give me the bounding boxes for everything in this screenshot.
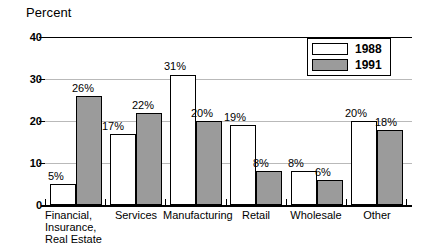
x-category-label-services: Services xyxy=(106,209,166,221)
legend: 1988 1991 xyxy=(307,38,391,76)
legend-swatch-1991 xyxy=(312,59,348,71)
bar-chart: Percent 40 30 20 10 0 5% 26% 17% 22% 31%… xyxy=(0,0,429,252)
bar-value-1988-services: 17% xyxy=(102,121,124,132)
x-axis-line xyxy=(41,205,412,207)
bar-value-1988-other: 20% xyxy=(345,108,367,119)
bar-value-1988-retail: 19% xyxy=(224,112,246,123)
y-tick-label-0: 0 xyxy=(18,200,42,211)
legend-label-1991: 1991 xyxy=(355,58,382,73)
x-category-label-other: Other xyxy=(347,209,407,221)
bar-1991-wholesale xyxy=(317,180,343,205)
bar-1991-manufacturing xyxy=(196,121,222,205)
legend-label-1988: 1988 xyxy=(355,42,382,57)
bar-value-1991-wholesale: 6% xyxy=(315,167,331,178)
bar-1991-retail xyxy=(256,171,282,205)
bar-1991-services xyxy=(136,113,162,205)
bar-1988-other xyxy=(351,121,377,205)
x-tick-6 xyxy=(406,199,407,205)
x-category-label-wholesale: Wholesale xyxy=(285,209,347,221)
bar-1991-financial xyxy=(76,96,102,205)
x-category-label-financial: Financial, Insurance, Real Estate xyxy=(45,209,107,245)
bar-value-1988-manufacturing: 31% xyxy=(164,61,186,72)
bar-1988-services xyxy=(110,134,136,205)
bar-1988-financial xyxy=(50,184,76,205)
x-tick-2 xyxy=(165,199,166,205)
bar-value-1991-financial: 26% xyxy=(72,83,94,94)
x-tick-4 xyxy=(286,199,287,205)
bar-1988-manufacturing xyxy=(170,75,196,205)
x-tick-5 xyxy=(346,199,347,205)
bar-value-1991-manufacturing: 20% xyxy=(191,108,213,119)
legend-swatch-1988 xyxy=(312,43,348,55)
bar-value-1988-wholesale: 8% xyxy=(288,158,304,169)
y-axis-title: Percent xyxy=(26,6,72,20)
bar-value-1988-financial: 5% xyxy=(48,171,64,182)
gridline-30 xyxy=(45,79,412,80)
x-tick-1 xyxy=(105,199,106,205)
x-tick-3 xyxy=(226,199,227,205)
x-category-label-manufacturing: Manufacturing xyxy=(163,209,229,221)
x-tick-0 xyxy=(45,199,46,205)
x-category-label-retail: Retail xyxy=(227,209,285,221)
bar-1991-other xyxy=(377,130,403,205)
bar-1988-wholesale xyxy=(291,171,317,205)
bar-value-1991-retail: 8% xyxy=(253,158,269,169)
bar-value-1991-other: 18% xyxy=(375,117,397,128)
bar-value-1991-services: 22% xyxy=(132,100,154,111)
